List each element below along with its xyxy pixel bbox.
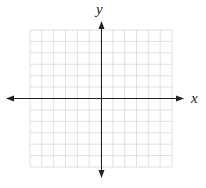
x-axis-label: x bbox=[190, 90, 198, 106]
y-axis-label: y bbox=[94, 1, 103, 17]
y-axis-down-arrow-icon bbox=[99, 170, 105, 178]
y-axis-up-arrow-icon bbox=[99, 21, 105, 29]
x-axis-right-arrow-icon bbox=[176, 96, 184, 102]
coordinate-plane: x y bbox=[0, 0, 206, 188]
x-axis-left-arrow-icon bbox=[6, 96, 14, 102]
